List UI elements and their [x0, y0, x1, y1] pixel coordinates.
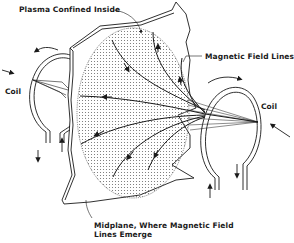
right-coil-label: Coil — [261, 102, 277, 111]
right-coil — [201, 87, 261, 190]
left-coil-arrows — [2, 47, 62, 160]
plasma-label: Plasma Confined Inside — [19, 5, 120, 14]
plasma-confinement-diagram: Plasma Confined Inside Magnetic Field Li… — [0, 0, 294, 243]
midplane-label-line2: Lines Emerge — [94, 230, 234, 239]
midplane-label-line1: Midplane, Where Magnetic Field — [94, 221, 234, 230]
plasma-region — [77, 28, 189, 198]
midplane-label: Midplane, Where Magnetic Field Lines Eme… — [94, 221, 234, 239]
left-coil — [30, 54, 70, 143]
magnetic-field-lines-label: Magnetic Field Lines — [205, 52, 294, 61]
diagram-drawing — [0, 0, 294, 243]
left-coil-label: Coil — [5, 87, 21, 96]
right-coil-arrows — [208, 77, 290, 198]
